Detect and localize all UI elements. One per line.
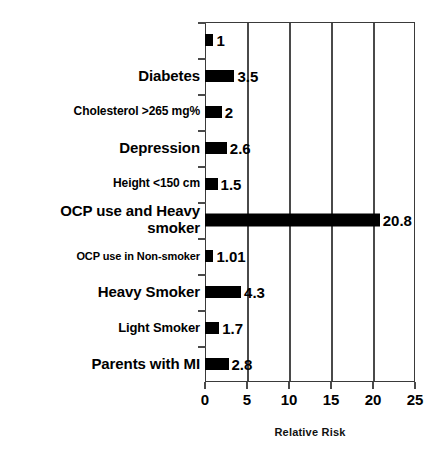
x-axis-tick-label: 15 bbox=[323, 391, 340, 408]
bar bbox=[205, 34, 213, 46]
category-label: Diabetes bbox=[2, 68, 200, 85]
bar bbox=[205, 178, 218, 190]
x-axis-tick-10 bbox=[288, 382, 290, 389]
category-label: Light Smoker bbox=[2, 321, 200, 336]
bar-value-label: 4.3 bbox=[244, 284, 265, 301]
category-label: Cholesterol >265 mg% bbox=[2, 105, 200, 118]
bar-value-label: 2.8 bbox=[232, 356, 253, 373]
x-axis-tick-label: 0 bbox=[201, 391, 209, 408]
bars-layer: 13.522.61.520.81.014.31.72.8 bbox=[205, 22, 442, 382]
x-axis-tick-25 bbox=[414, 382, 416, 389]
bar-value-label: 20.8 bbox=[383, 212, 412, 229]
bar bbox=[205, 70, 234, 82]
bar bbox=[205, 214, 380, 227]
category-label: Parents with MI bbox=[2, 356, 200, 373]
category-label: Height <150 cm bbox=[2, 177, 200, 190]
bar-value-label: 2 bbox=[225, 104, 233, 121]
x-axis-title: Relative Risk bbox=[205, 426, 415, 438]
bar-value-label: 1.5 bbox=[221, 176, 242, 193]
bar bbox=[205, 106, 222, 118]
bar bbox=[205, 358, 229, 370]
bar-value-label: 1.01 bbox=[216, 248, 245, 265]
bar-value-label: 1 bbox=[216, 32, 224, 49]
category-label: OCP use and Heavy smoker bbox=[2, 203, 200, 237]
x-axis-tick-label: 5 bbox=[243, 391, 251, 408]
relative-risk-bar-chart: DiabetesCholesterol >265 mg%DepressionHe… bbox=[0, 0, 442, 464]
bar bbox=[205, 142, 227, 154]
x-axis-tick-5 bbox=[246, 382, 248, 389]
x-axis-tick-label: 25 bbox=[407, 391, 424, 408]
bar-value-label: 3.5 bbox=[237, 68, 258, 85]
x-axis-tick-20 bbox=[372, 382, 374, 389]
category-label-column: DiabetesCholesterol >265 mg%DepressionHe… bbox=[0, 22, 200, 382]
x-axis-tick-label: 10 bbox=[281, 391, 298, 408]
bar-value-label: 2.6 bbox=[230, 140, 251, 157]
x-axis-tick-0 bbox=[204, 382, 206, 389]
bar bbox=[205, 322, 219, 334]
category-label: Depression bbox=[2, 140, 200, 157]
bar bbox=[205, 250, 213, 262]
x-axis-tick-15 bbox=[330, 382, 332, 389]
category-label: Heavy Smoker bbox=[2, 284, 200, 301]
category-label: OCP use in Non-smoker bbox=[2, 250, 200, 262]
bar bbox=[205, 286, 241, 298]
bar-value-label: 1.7 bbox=[222, 320, 243, 337]
x-axis-tick-label: 20 bbox=[365, 391, 382, 408]
